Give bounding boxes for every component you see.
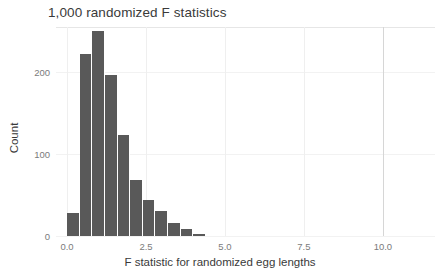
- histogram-bar: [105, 75, 118, 236]
- histogram-bar: [92, 31, 105, 236]
- gridline-y-0: [56, 236, 435, 237]
- histogram-figure: 1,000 randomized F statistics 0.02.55.07…: [0, 0, 440, 273]
- histogram-bar: [67, 213, 80, 236]
- histogram-bar: [168, 223, 181, 236]
- x-tick-label: 10.0: [374, 241, 393, 252]
- histogram-bar: [143, 200, 156, 236]
- page-title: 1,000 randomized F statistics: [48, 5, 226, 20]
- x-tick-label: 0.0: [60, 241, 73, 252]
- bar-series: [56, 27, 435, 236]
- x-tick-label: 5.0: [218, 241, 231, 252]
- histogram-bar: [193, 234, 206, 236]
- y-tick-label: 200: [24, 67, 50, 78]
- y-tick-label: 100: [24, 149, 50, 160]
- histogram-bar: [181, 229, 194, 236]
- y-axis-title: Count: [8, 108, 20, 168]
- y-tick-label: 0: [24, 231, 50, 242]
- x-tick-label: 7.5: [297, 241, 310, 252]
- histogram-bar: [155, 211, 168, 236]
- plot-panel: [56, 27, 435, 236]
- x-axis-title: F statistic for randomized egg lengths: [0, 256, 440, 268]
- histogram-bar: [130, 180, 143, 236]
- histogram-bar: [118, 135, 131, 236]
- x-tick-label: 2.5: [139, 241, 152, 252]
- histogram-bar: [80, 54, 93, 236]
